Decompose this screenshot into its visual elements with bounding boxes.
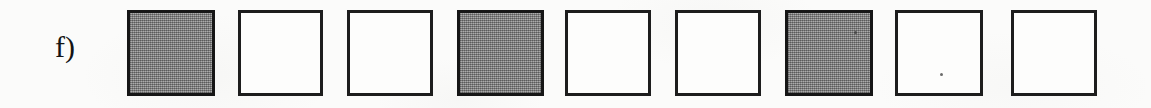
scan-speck	[854, 31, 857, 34]
pattern-square-2-empty[interactable]	[238, 10, 323, 96]
pattern-square-6-empty[interactable]	[675, 10, 761, 96]
pattern-square-1-filled[interactable]	[127, 10, 215, 96]
worksheet-pattern-row: f)	[0, 0, 1151, 108]
pattern-square-5-empty[interactable]	[565, 10, 651, 96]
pattern-square-3-empty[interactable]	[347, 10, 433, 96]
pattern-square-7-filled[interactable]	[785, 10, 873, 96]
pattern-square-4-filled[interactable]	[457, 10, 544, 96]
pattern-square-9-empty[interactable]	[1011, 10, 1097, 96]
pattern-square-8-empty[interactable]	[895, 10, 983, 96]
square-sequence	[0, 0, 1151, 108]
scan-speck	[940, 73, 943, 76]
